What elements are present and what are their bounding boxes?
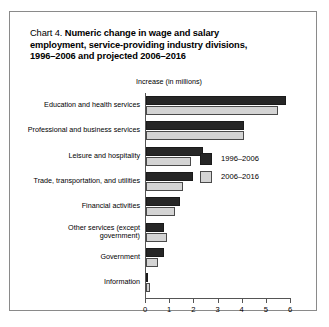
x-tick-label: 3 — [208, 305, 228, 314]
x-tick-label: 2 — [183, 305, 203, 314]
x-tick — [290, 299, 291, 303]
category-label: Information — [15, 278, 140, 287]
bar — [146, 121, 244, 130]
x-tick — [242, 299, 243, 303]
chart-title-line: employment, service-providing industry d… — [30, 40, 300, 52]
chart-title: Chart 4. Numeric change in wage and sala… — [30, 28, 300, 63]
plot-area: Education and health servicesProfessiona… — [145, 93, 290, 298]
category-label: Professional and business services — [15, 126, 140, 135]
bar — [146, 233, 167, 242]
x-tick-label: 0 — [135, 305, 155, 314]
category-label: Trade, transportation, and utilities — [15, 177, 140, 186]
x-tick — [169, 299, 170, 303]
x-tick — [193, 299, 194, 303]
x-axis-title: Increase (in millions) — [136, 77, 202, 86]
x-tick — [266, 299, 267, 303]
bar — [146, 223, 164, 232]
bar — [146, 197, 180, 206]
legend-swatch — [200, 171, 212, 183]
category-label: Other services (exceptgovernment) — [15, 224, 140, 241]
bar — [146, 157, 191, 166]
x-tick-label: 6 — [280, 305, 300, 314]
x-tick-label: 5 — [256, 305, 276, 314]
category-label: Government — [15, 253, 140, 262]
category-label: Financial activities — [15, 202, 140, 211]
bar — [146, 283, 150, 292]
bar — [146, 106, 278, 115]
bar — [146, 248, 164, 257]
chart-title-lead: Chart 4. — [30, 28, 65, 38]
bar — [146, 147, 203, 156]
category-label: Education and health services — [15, 101, 140, 110]
x-tick — [218, 299, 219, 303]
chart-title-line: 1996–2006 and projected 2006–2016 — [30, 51, 300, 63]
chart-title-line: Chart 4. Numeric change in wage and sala… — [30, 28, 300, 40]
chart-frame: Chart 4. Numeric change in wage and sala… — [9, 11, 317, 311]
legend-swatch — [200, 153, 212, 165]
x-tick-label: 1 — [159, 305, 179, 314]
bar — [146, 182, 183, 191]
bar — [146, 96, 286, 105]
bar — [146, 172, 193, 181]
bar — [146, 258, 158, 267]
category-label: Leisure and hospitality — [15, 152, 140, 161]
x-tick-label: 4 — [232, 305, 252, 314]
x-tick — [145, 299, 146, 303]
legend-label: 1996–2006 — [221, 154, 259, 163]
legend-label: 2006–2016 — [221, 172, 259, 181]
bar — [146, 207, 175, 216]
bar — [146, 273, 148, 282]
bar — [146, 131, 244, 140]
